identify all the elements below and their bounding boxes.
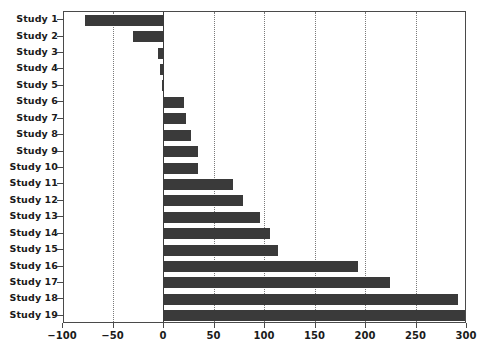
bar-study-13	[164, 212, 260, 223]
y-axis-label-study-14: Study 14	[0, 227, 58, 238]
x-tick-200	[365, 323, 366, 328]
bar-study-14	[164, 228, 270, 239]
bar-study-3	[158, 48, 164, 59]
x-axis-label-250: 250	[405, 330, 426, 341]
x-tick-150	[315, 323, 316, 328]
gridline-150	[315, 12, 316, 322]
plot-area	[63, 11, 466, 323]
y-axis-label-study-2: Study 2	[0, 30, 58, 41]
bar-study-16	[164, 261, 358, 272]
gridline--50	[113, 12, 114, 322]
y-axis-label-study-19: Study 19	[0, 309, 58, 320]
bar-study-1	[85, 15, 164, 26]
x-axis-label-300: 300	[456, 330, 477, 341]
x-tick-100	[264, 323, 265, 328]
gridline-100	[264, 12, 265, 322]
bar-study-10	[164, 163, 198, 174]
y-axis-label-study-11: Study 11	[0, 177, 58, 188]
y-axis-label-study-5: Study 5	[0, 79, 58, 90]
y-axis-label-study-15: Study 15	[0, 243, 58, 254]
bar-study-7	[164, 113, 186, 124]
bar-chart: Study 1Study 2Study 3Study 4Study 5Study…	[0, 0, 486, 357]
bar-study-19	[164, 310, 466, 321]
y-axis-label-study-18: Study 18	[0, 292, 58, 303]
x-tick-50	[214, 323, 215, 328]
y-axis-label-study-6: Study 6	[0, 95, 58, 106]
x-axis-label-100: 100	[254, 330, 275, 341]
y-axis-label-study-13: Study 13	[0, 210, 58, 221]
gridline-250	[416, 12, 417, 322]
x-axis-label--100: −100	[47, 330, 76, 341]
x-axis-label-50: 50	[207, 330, 221, 341]
bar-study-11	[164, 179, 233, 190]
y-axis-label-study-8: Study 8	[0, 128, 58, 139]
bar-study-17	[164, 277, 390, 288]
bar-study-15	[164, 245, 278, 256]
x-tick--50	[113, 323, 114, 328]
bar-study-5	[162, 80, 164, 91]
bar-study-2	[133, 31, 164, 42]
x-tick-300	[466, 323, 467, 328]
x-axis-label-200: 200	[355, 330, 376, 341]
x-axis-label-150: 150	[304, 330, 325, 341]
y-axis-label-study-16: Study 16	[0, 260, 58, 271]
y-axis-label-study-7: Study 7	[0, 112, 58, 123]
y-axis-label-study-4: Study 4	[0, 62, 58, 73]
x-tick-250	[416, 323, 417, 328]
y-axis-label-study-12: Study 12	[0, 194, 58, 205]
y-axis-label-study-9: Study 9	[0, 145, 58, 156]
y-axis-label-study-17: Study 17	[0, 276, 58, 287]
gridline-200	[365, 12, 366, 322]
bar-study-8	[164, 130, 191, 141]
x-axis-label--50: −50	[101, 330, 123, 341]
x-tick-0	[163, 323, 164, 328]
x-axis-label-0: 0	[160, 330, 167, 341]
bar-study-9	[164, 146, 198, 157]
bar-study-4	[160, 64, 164, 75]
gridline-50	[214, 12, 215, 322]
bar-study-12	[164, 195, 243, 206]
y-axis-label-study-3: Study 3	[0, 46, 58, 57]
bar-study-6	[164, 97, 184, 108]
x-tick--100	[62, 323, 63, 328]
y-axis-label-study-1: Study 1	[0, 13, 58, 24]
y-axis-label-study-10: Study 10	[0, 161, 58, 172]
bar-study-18	[164, 294, 458, 305]
